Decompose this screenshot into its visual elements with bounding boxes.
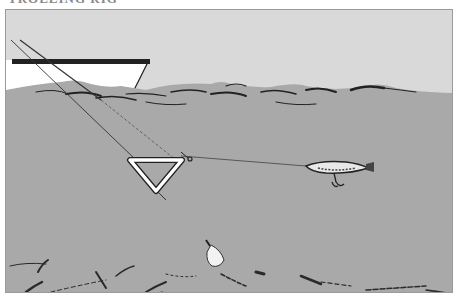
figure-caption-cut-off: TROLLING RIG <box>8 0 118 7</box>
fishing-rig-illustration <box>6 10 453 293</box>
illustration-frame <box>5 9 453 293</box>
water <box>6 80 453 293</box>
